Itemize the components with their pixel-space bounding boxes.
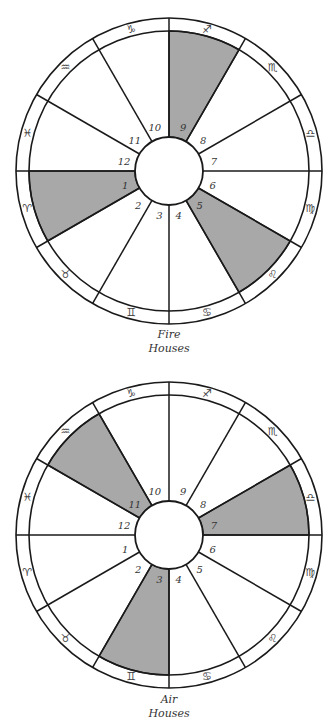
house-number-1: 1 — [122, 180, 128, 191]
zodiac-taurus-icon: ♉ — [60, 632, 70, 645]
zodiac-scorpio-icon: ♏ — [268, 425, 278, 438]
air-caption-line2: Houses — [147, 707, 189, 720]
zodiac-aquarius-icon: ♒ — [60, 61, 70, 74]
zodiac-pisces-icon: ♓ — [23, 491, 33, 504]
house-cusp-line — [186, 402, 246, 505]
zodiac-cancer-icon: ♋ — [202, 670, 212, 683]
zodiac-cancer-icon: ♋ — [202, 306, 212, 319]
house-charts-diagram: 123456789101112♈♉♊♋♌♍♎♏♐♑♒♓ Fire Houses … — [0, 0, 331, 727]
house-cusp-line — [198, 95, 301, 155]
house-cusp-line — [198, 552, 301, 612]
zodiac-sagittarius-icon: ♐ — [202, 23, 212, 36]
house-number-6: 6 — [210, 180, 217, 191]
house-number-9: 9 — [180, 122, 187, 133]
fire-houses-chart: 123456789101112♈♉♊♋♌♍♎♏♐♑♒♓ — [16, 18, 322, 324]
house-number-8: 8 — [200, 135, 206, 146]
zodiac-leo-icon: ♌ — [268, 632, 278, 645]
fire-caption-line1: Fire — [157, 328, 181, 341]
house-number-2: 2 — [134, 564, 141, 575]
house-number-10: 10 — [148, 486, 161, 497]
house-number-7: 7 — [211, 520, 218, 531]
house-number-12: 12 — [118, 520, 131, 531]
zodiac-scorpio-icon: ♏ — [268, 61, 278, 74]
zodiac-taurus-icon: ♉ — [60, 268, 70, 281]
zodiac-aquarius-icon: ♒ — [60, 425, 70, 438]
zodiac-libra-icon: ♎ — [306, 127, 316, 140]
zodiac-aries-icon: ♈ — [23, 566, 33, 579]
house-cusp-line — [36, 552, 139, 612]
house-number-7: 7 — [211, 156, 218, 167]
house-number-6: 6 — [210, 544, 217, 555]
house-number-8: 8 — [200, 499, 206, 510]
house-number-2: 2 — [134, 200, 141, 211]
zodiac-capricorn-icon: ♑ — [126, 23, 136, 36]
house-number-3: 3 — [156, 210, 162, 221]
air-caption-line1: Air — [160, 693, 178, 706]
house-number-10: 10 — [148, 122, 161, 133]
house-cusp-line — [186, 564, 246, 667]
house-number-4: 4 — [174, 210, 181, 221]
zodiac-capricorn-icon: ♑ — [126, 387, 136, 400]
zodiac-gemini-icon: ♊ — [126, 670, 136, 683]
zodiac-sagittarius-icon: ♐ — [202, 387, 212, 400]
center-hub — [135, 501, 203, 569]
house-number-11: 11 — [128, 499, 141, 510]
zodiac-libra-icon: ♎ — [306, 491, 316, 504]
zodiac-virgo-icon: ♍ — [306, 566, 316, 579]
house-number-9: 9 — [180, 486, 187, 497]
center-hub — [135, 137, 203, 205]
house-cusp-line — [93, 200, 153, 303]
house-number-5: 5 — [197, 564, 203, 575]
zodiac-gemini-icon: ♊ — [126, 306, 136, 319]
zodiac-aries-icon: ♈ — [23, 202, 33, 215]
house-number-11: 11 — [128, 135, 141, 146]
fire-caption-line2: Houses — [147, 342, 189, 355]
house-number-5: 5 — [197, 200, 203, 211]
house-cusp-line — [36, 95, 139, 155]
house-number-1: 1 — [122, 544, 128, 555]
zodiac-leo-icon: ♌ — [268, 268, 278, 281]
zodiac-pisces-icon: ♓ — [23, 127, 33, 140]
house-number-4: 4 — [174, 574, 181, 585]
house-number-3: 3 — [156, 574, 162, 585]
zodiac-virgo-icon: ♍ — [306, 202, 316, 215]
air-houses-chart: 123456789101112♈♉♊♋♌♍♎♏♐♑♒♓ — [16, 382, 322, 688]
house-cusp-line — [93, 38, 153, 141]
house-number-12: 12 — [118, 156, 131, 167]
